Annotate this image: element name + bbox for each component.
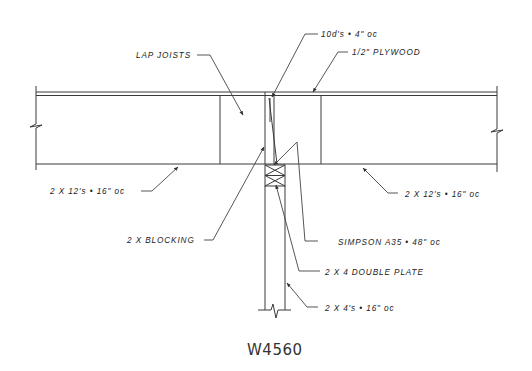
joists-right-leader [363,168,398,193]
clip-leader [274,142,318,241]
plate-bottom-x-icon [265,176,285,187]
double-plate-label: 2 X 4 DOUBLE PLATE [324,268,424,277]
joists-left-label: 2 X 12's • 16" oc [49,187,125,196]
nails-label: 10d's • 4" oc [321,30,378,39]
joists-left-leader [141,167,178,191]
blocking-label: 2 X BLOCKING [126,236,195,245]
plywood-leader [313,52,348,92]
plywood-label: 1/2" PLYWOOD [352,48,420,57]
clip-label: SIMPSON A35 • 48" oc [338,238,441,247]
blocking-leader [204,147,264,240]
leaders [141,34,398,307]
left-break-icon [30,86,42,170]
joists-right-label: 2 X 12's • 16" oc [404,190,480,199]
double-plate-leader [276,185,320,271]
nails-leader [272,34,318,97]
detail-drawing: 10d's • 4" oc 1/2" PLYWOOD LAP JOISTS 2 … [0,0,532,371]
floor-assembly [30,86,503,172]
studs-leader [287,283,318,307]
wall-assembly [258,165,291,318]
right-break-icon [491,86,503,172]
bottom-break-icon [258,304,291,318]
plate-top-x-icon [265,165,285,176]
studs-label: 2 X 4's • 16" oc [324,304,395,313]
lap-joists-label: LAP JOISTS [136,51,191,60]
drawing-id: W4560 [247,341,303,359]
